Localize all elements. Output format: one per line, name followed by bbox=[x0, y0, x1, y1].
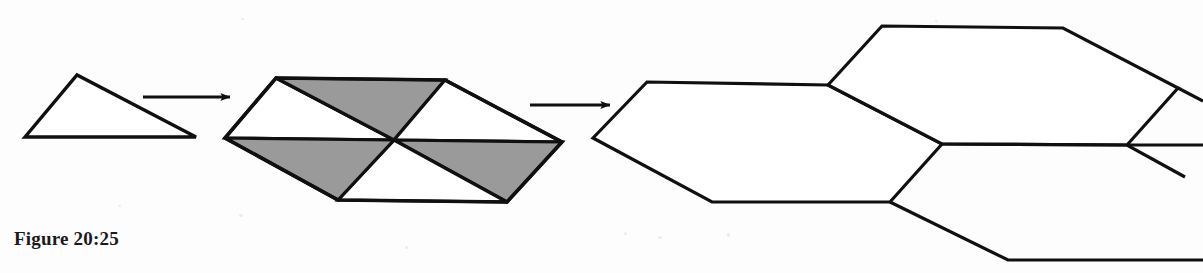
triangle-shape bbox=[25, 75, 196, 137]
figure-caption: Figure 20:25 bbox=[14, 228, 119, 250]
figure-page: Figure 20:25 bbox=[0, 0, 1203, 273]
hexagon-bottom-right bbox=[890, 144, 1203, 260]
edge-right-continuation bbox=[1178, 88, 1203, 101]
step-1-single-triangle bbox=[25, 75, 196, 137]
step-2-six-triangle-hexagon bbox=[225, 78, 562, 202]
step-3-hexagon-tiling bbox=[593, 26, 1203, 260]
figure-diagram bbox=[0, 0, 1203, 273]
